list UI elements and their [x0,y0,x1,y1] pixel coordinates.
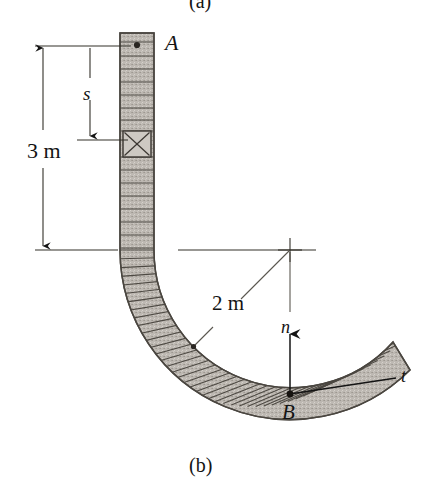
label-tangential-axis: t [401,367,406,385]
figure-container: (a) A s 3 m 2 m n t B (b) [0,0,423,482]
label-normal-axis: n [281,318,290,336]
label-radius: 2 m [212,293,244,314]
chute-body [113,33,410,420]
package-crate [123,131,151,157]
label-point-a: A [165,32,178,54]
caption-b: (b) [189,455,212,475]
dimension-lines [35,46,316,250]
label-distance-s: s [83,84,90,103]
point-a-marker [134,42,140,48]
chute-diagram-svg [0,0,423,482]
label-drop-height: 3 m [27,140,61,162]
caption-a: (a) [189,0,211,11]
label-point-b: B [282,402,295,423]
